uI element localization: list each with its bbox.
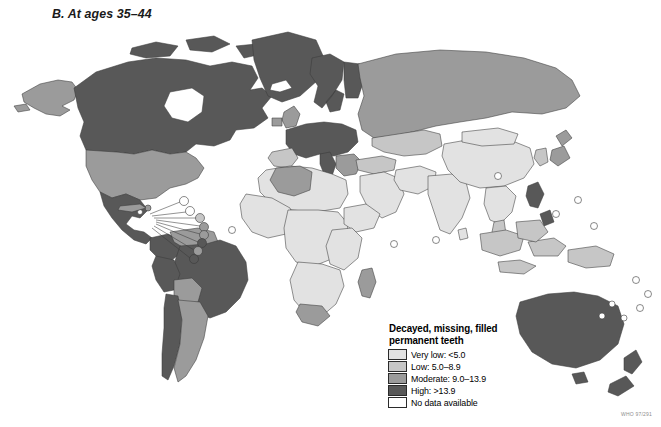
region-united-kingdom — [272, 106, 300, 128]
region-mongolia — [462, 128, 518, 146]
legend-swatch-moderate — [388, 373, 407, 384]
legend-item-very-low: Very low: <5.0 — [388, 349, 506, 360]
region-indochina — [484, 186, 516, 224]
legend-item-no-data: No data available — [388, 397, 506, 408]
source-credit: WHO 97/291 — [621, 411, 652, 417]
region-mexico-central-america — [100, 192, 152, 244]
legend-item-moderate: Moderate: 9.0–13.9 — [388, 373, 506, 384]
region-east-africa — [326, 228, 362, 270]
region-philippines — [526, 182, 554, 226]
figure-panel: B. At ages 35–44 — [0, 0, 661, 427]
region-russia — [358, 50, 580, 138]
legend-swatch-high — [388, 385, 407, 396]
legend-item-high: High: >13.9 — [388, 385, 506, 396]
region-korea-peninsula — [534, 148, 548, 166]
region-tasmania — [572, 372, 588, 384]
region-iberia — [268, 148, 298, 168]
map-svg — [0, 18, 661, 418]
legend-label-no-data: No data available — [411, 397, 478, 408]
legend-swatch-no-data — [388, 397, 407, 408]
region-scandinavia — [310, 54, 344, 112]
region-new-guinea — [568, 246, 614, 268]
legend-label-low: Low: 5.0–8.9 — [411, 361, 460, 372]
world-map — [0, 18, 661, 418]
region-sri-lanka — [458, 228, 468, 240]
region-western-europe — [286, 122, 358, 158]
region-new-zealand — [608, 350, 642, 396]
legend-swatch-low — [388, 361, 407, 372]
legend-swatch-very-low — [388, 349, 407, 360]
legend-item-low: Low: 5.0–8.9 — [388, 361, 506, 372]
legend-label-moderate: Moderate: 9.0–13.9 — [411, 373, 486, 384]
legend-label-very-low: Very low: <5.0 — [411, 349, 465, 360]
legend-label-high: High: >13.9 — [411, 385, 455, 396]
region-madagascar — [358, 268, 376, 298]
region-united-states — [86, 150, 204, 200]
region-canadian-arctic — [130, 36, 262, 58]
map-legend: Decayed, missing, filled permanent teeth… — [386, 321, 510, 411]
region-australia — [516, 292, 624, 368]
region-alaska — [14, 80, 78, 116]
region-turkey — [356, 156, 396, 174]
region-japan — [550, 130, 572, 166]
legend-title: Decayed, missing, filled permanent teeth — [389, 323, 497, 346]
